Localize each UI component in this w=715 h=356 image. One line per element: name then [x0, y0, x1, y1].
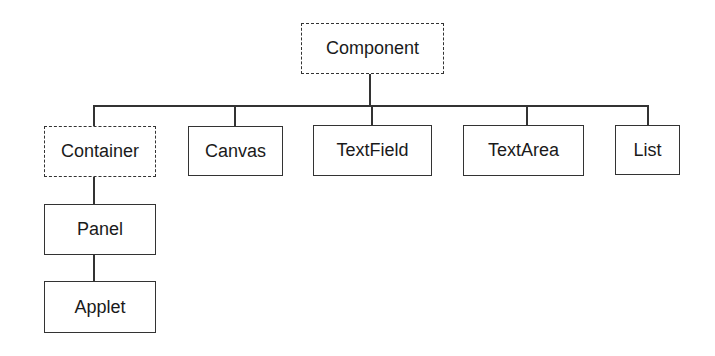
- node-canvas: Canvas: [188, 126, 283, 176]
- class-hierarchy-diagram: Component Container Canvas TextField Tex…: [0, 0, 715, 356]
- node-label: Panel: [77, 219, 123, 240]
- node-label: Applet: [74, 297, 125, 318]
- node-label: List: [633, 140, 661, 161]
- node-panel: Panel: [44, 204, 156, 255]
- connector-component-stem: [369, 73, 371, 106]
- connector-to-list: [647, 105, 649, 126]
- connector-container-panel: [93, 177, 95, 205]
- node-textarea: TextArea: [463, 125, 584, 176]
- connector-to-canvas: [234, 105, 236, 126]
- node-label: Container: [61, 141, 139, 162]
- node-list: List: [615, 125, 680, 175]
- node-label: Component: [326, 38, 419, 59]
- node-container: Container: [44, 126, 156, 177]
- node-label: TextArea: [488, 140, 559, 161]
- node-label: TextField: [336, 140, 408, 161]
- connector-to-textfield: [371, 105, 373, 126]
- node-textfield: TextField: [313, 125, 432, 176]
- connector-panel-applet: [93, 255, 95, 282]
- connector-to-container: [93, 105, 95, 126]
- connector-to-textarea: [526, 105, 528, 126]
- node-component: Component: [301, 23, 444, 74]
- node-applet: Applet: [44, 281, 156, 333]
- node-label: Canvas: [205, 141, 266, 162]
